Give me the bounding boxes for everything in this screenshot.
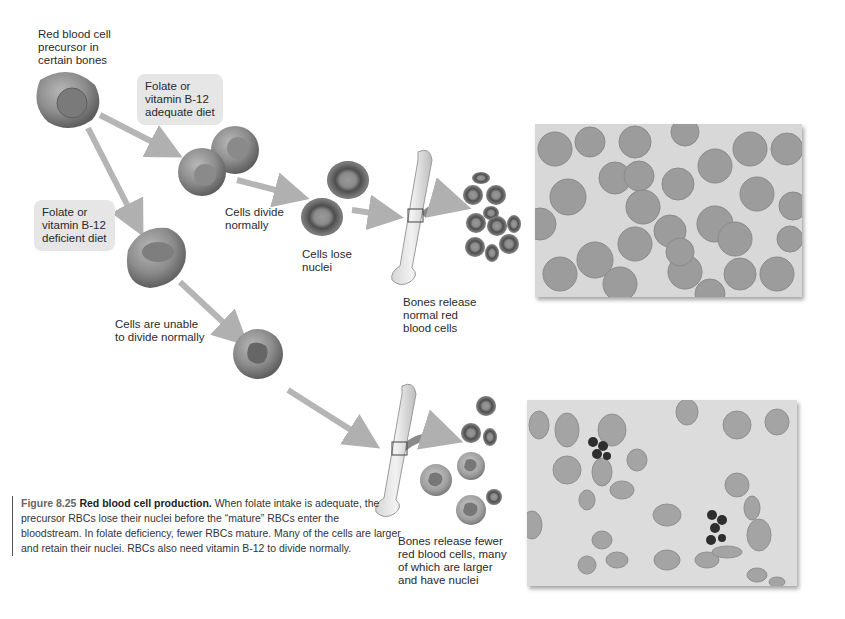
figure-title: Red blood cell production. — [79, 497, 211, 509]
label-precursor: Red blood cell precursor in certain bone… — [38, 28, 111, 67]
deficient-micrograph-art — [527, 400, 797, 586]
neutrophil-icon — [588, 437, 727, 545]
label-bones-release-fewer: Bones release fewer red blood cells, man… — [398, 535, 507, 587]
curved-arrow-bone2-release — [402, 436, 450, 449]
bone-icon-top — [392, 150, 432, 284]
label-cells-divide: Cells divide normally — [225, 206, 284, 232]
curved-arrow-bone1-release — [423, 204, 458, 215]
arrow-large-to-bone — [288, 390, 370, 442]
figure-caption-text: When folate intake is adequate, the prec… — [21, 497, 401, 554]
normal-rbc-cluster-icon — [463, 172, 521, 262]
arrow-divide-to-lose — [237, 180, 298, 196]
figure-number: Figure 8.25 — [21, 497, 76, 509]
micrograph-normal — [535, 124, 802, 297]
label-cells-unable: Cells are unable to divide normally — [115, 318, 204, 344]
arrow-lose-to-bone — [352, 210, 392, 216]
label-deficient-diet: Folate or vitamin B-12 deficient diet — [34, 200, 115, 251]
figure-caption: Figure 8.25 Red blood cell production. W… — [12, 496, 401, 556]
large-nucleated-cell-icon — [233, 329, 283, 379]
precursor-cell-icon — [36, 72, 99, 128]
label-cells-lose-nuclei: Cells lose nuclei — [302, 248, 352, 274]
label-bones-release-normal: Bones release normal red blood cells — [403, 296, 477, 335]
label-adequate-diet: Folate or vitamin B-12 adequate diet — [137, 74, 223, 125]
normal-rbc-micrograph-art — [535, 124, 802, 297]
anucleate-rbc-icon — [301, 161, 369, 236]
deficient-precursor-cell-icon — [127, 228, 186, 288]
deficient-rbc-cluster-icon — [420, 396, 502, 525]
micrograph-deficient — [527, 400, 797, 586]
